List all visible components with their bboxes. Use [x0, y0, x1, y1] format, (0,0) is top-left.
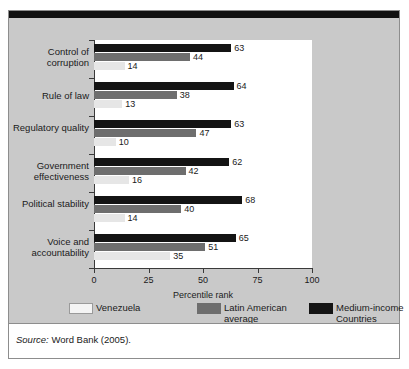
bar-value-label: 40	[184, 205, 194, 213]
bar-value-label: 10	[119, 138, 129, 146]
bar-value-label: 63	[234, 44, 244, 52]
bar	[94, 100, 122, 108]
bar-value-label: 63	[234, 120, 244, 128]
x-axis-tick	[94, 269, 95, 273]
legend-swatch	[197, 303, 221, 314]
bar-value-label: 14	[128, 214, 138, 222]
source-strip: Source: Word Bank (2005).	[9, 323, 399, 358]
source-note: Source: Word Bank (2005).	[16, 334, 131, 345]
y-axis-tick	[89, 40, 94, 41]
bar-value-label: 35	[173, 252, 183, 260]
figure-box: Control of corruptionRule of lawRegulato…	[8, 10, 400, 359]
x-axis-title: Percentile rank	[94, 290, 312, 300]
legend-swatch	[69, 303, 93, 314]
category-label: Rule of law	[11, 90, 89, 101]
bar	[94, 120, 231, 128]
y-axis-tick	[89, 192, 94, 193]
bar	[94, 252, 170, 260]
y-axis-tick	[89, 154, 94, 155]
x-axis-tick-label: 75	[243, 275, 273, 285]
bar	[94, 62, 125, 70]
bar	[94, 138, 116, 146]
bar	[94, 196, 242, 204]
bar	[94, 91, 177, 99]
bar-value-label: 44	[193, 53, 203, 61]
top-rule	[9, 11, 399, 18]
category-label: Regulatory quality	[11, 122, 89, 133]
y-axis-tick	[89, 78, 94, 79]
category-labels: Control of corruptionRule of lawRegulato…	[9, 40, 89, 268]
bar-value-label: 47	[199, 129, 209, 137]
legend-label: Venezuela	[96, 302, 191, 313]
bar-group: 624216	[94, 158, 312, 184]
category-label: Voice and accountability	[11, 236, 89, 258]
bar-value-label: 62	[232, 158, 242, 166]
source-text: Word Bank (2005).	[51, 334, 131, 345]
bar-group: 684014	[94, 196, 312, 222]
bar-group: 634710	[94, 120, 312, 146]
x-axis-tick-label: 100	[297, 275, 327, 285]
x-axis-tick-label: 0	[79, 275, 109, 285]
bar	[94, 205, 181, 213]
x-axis-tick-label: 25	[134, 275, 164, 285]
bar	[94, 167, 186, 175]
legend-label: Latin American average	[224, 302, 319, 324]
bar-value-label: 16	[132, 176, 142, 184]
x-axis-tick-label: 50	[188, 275, 218, 285]
bar	[94, 214, 125, 222]
bar-value-label: 64	[237, 82, 247, 90]
source-prefix: Source:	[16, 334, 49, 345]
bar	[94, 234, 236, 242]
bar	[94, 158, 229, 166]
bar-value-label: 65	[239, 234, 249, 242]
bar	[94, 176, 129, 184]
x-axis-tick	[203, 269, 204, 273]
y-axis-tick	[89, 230, 94, 231]
bar	[94, 82, 234, 90]
bar-value-label: 68	[245, 196, 255, 204]
bar-value-label: 38	[180, 91, 190, 99]
bar-value-label: 42	[189, 167, 199, 175]
bar	[94, 44, 231, 52]
y-axis-tick	[89, 116, 94, 117]
bar-group: 643813	[94, 82, 312, 108]
category-label: Control of corruption	[11, 46, 89, 68]
x-axis-tick	[258, 269, 259, 273]
bar-group: 634414	[94, 44, 312, 70]
category-label: Government effectiveness	[11, 160, 89, 182]
legend-label: Medium-income Countries	[336, 302, 409, 324]
legend-swatch	[309, 303, 333, 314]
bar-value-label: 13	[125, 100, 135, 108]
bar	[94, 243, 205, 251]
bar	[94, 129, 196, 137]
x-axis-tick	[149, 269, 150, 273]
bar	[94, 53, 190, 61]
bar-value-label: 51	[208, 243, 218, 251]
category-label: Political stability	[11, 198, 89, 209]
x-axis-tick	[312, 269, 313, 273]
bar-value-label: 14	[128, 62, 138, 70]
bar-group: 655135	[94, 234, 312, 260]
chart-panel: Control of corruptionRule of lawRegulato…	[9, 18, 399, 325]
